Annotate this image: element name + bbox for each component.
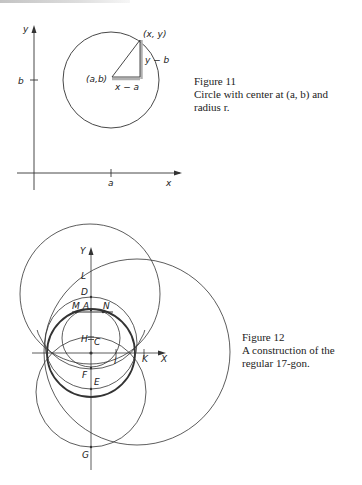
- point-K-label: K: [142, 354, 149, 364]
- Y-axis-arrow-icon: [89, 247, 94, 255]
- circle-centered-K: [44, 259, 230, 445]
- point-H-label: H: [81, 334, 88, 344]
- point-M-label: M: [72, 301, 80, 311]
- X-axis-label: X: [160, 354, 168, 364]
- figure-12-title: Figure 12: [242, 331, 335, 344]
- point-F-label: F: [82, 370, 88, 380]
- figure-12-caption-line1: A construction of the: [242, 344, 335, 357]
- point-D-label: D: [81, 287, 88, 297]
- figure-12-caption-line2: regular 17-gon.: [242, 357, 335, 370]
- Y-axis-label: Y: [80, 246, 87, 256]
- point-C-label: C: [94, 337, 101, 347]
- figure-12-caption: Figure 12 A construction of the regular …: [242, 331, 335, 370]
- point-L-label: L: [81, 271, 86, 281]
- figure-12-diagram: Y X L D M A N H C I K F E G: [0, 0, 362, 485]
- point-E-label: E: [94, 377, 100, 387]
- point-I-label: I: [114, 356, 117, 366]
- point-A-label: A: [82, 301, 89, 311]
- point-G-label: G: [82, 450, 89, 460]
- point-N-label: N: [103, 301, 110, 311]
